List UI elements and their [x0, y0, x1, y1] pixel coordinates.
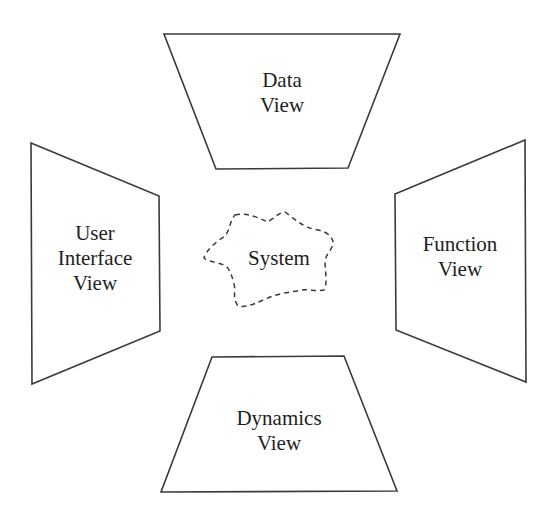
user-interface-view-label-line3: View	[40, 271, 150, 296]
system-views-diagram: Data View User Interface View Function V…	[0, 0, 557, 514]
dynamics-view-label: Dynamics View	[219, 406, 339, 456]
dynamics-view-label-line2: View	[219, 431, 339, 456]
function-view-label: Function View	[405, 232, 515, 282]
system-label: System	[229, 246, 329, 271]
system-label-text: System	[229, 246, 329, 271]
data-view-label: Data View	[232, 68, 332, 118]
user-interface-view-label-line1: User	[40, 221, 150, 246]
dynamics-view-label-line1: Dynamics	[219, 406, 339, 431]
user-interface-view-label: User Interface View	[40, 221, 150, 296]
data-view-label-line1: Data	[232, 68, 332, 93]
data-view-label-line2: View	[232, 93, 332, 118]
function-view-label-line2: View	[405, 257, 515, 282]
user-interface-view-label-line2: Interface	[40, 246, 150, 271]
function-view-label-line1: Function	[405, 232, 515, 257]
